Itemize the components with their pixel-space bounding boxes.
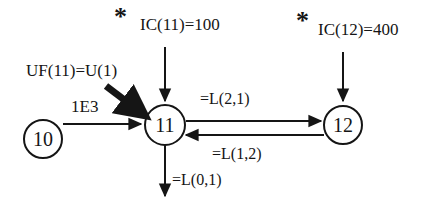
flow-diagram: 10 11 12 * * IC(11)=100 IC(12)=400 UF(11… bbox=[0, 0, 434, 213]
edge-uf11-to-node11 bbox=[106, 86, 143, 114]
asterisk-icon-right: * bbox=[296, 8, 309, 34]
node-12-label: 12 bbox=[324, 115, 362, 135]
label-initial-condition-12: IC(12)=400 bbox=[318, 21, 398, 38]
asterisk-icon-left: * bbox=[114, 4, 127, 30]
node-10-label: 10 bbox=[24, 129, 62, 149]
label-link-1-2: =L(1,2) bbox=[212, 146, 261, 162]
label-flow-1e3: 1E3 bbox=[71, 98, 98, 115]
label-link-2-1: =L(2,1) bbox=[200, 91, 249, 107]
label-uf-11: UF(11)=U(1) bbox=[26, 62, 117, 79]
node-11-label: 11 bbox=[146, 115, 184, 135]
label-initial-condition-11: IC(11)=100 bbox=[140, 16, 220, 33]
label-link-0-1: =L(0,1) bbox=[172, 172, 221, 188]
